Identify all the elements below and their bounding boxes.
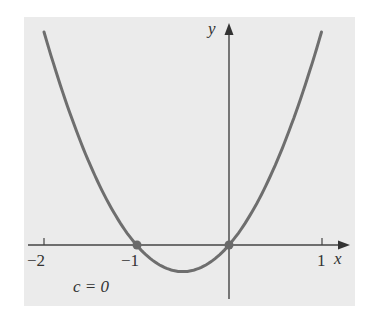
point-root-neg1 xyxy=(133,241,142,250)
plot-panel xyxy=(24,17,355,306)
chart: −2 −1 1 x y c = 0 xyxy=(0,0,369,316)
tick-label-neg1: −1 xyxy=(121,251,139,270)
x-axis-label: x xyxy=(333,249,342,268)
tick-label-neg2: −2 xyxy=(27,251,45,270)
point-root-0 xyxy=(225,241,234,250)
tick-label-1: 1 xyxy=(317,251,326,270)
annotation-c-equals-0: c = 0 xyxy=(73,277,110,296)
y-axis-label: y xyxy=(206,19,216,38)
